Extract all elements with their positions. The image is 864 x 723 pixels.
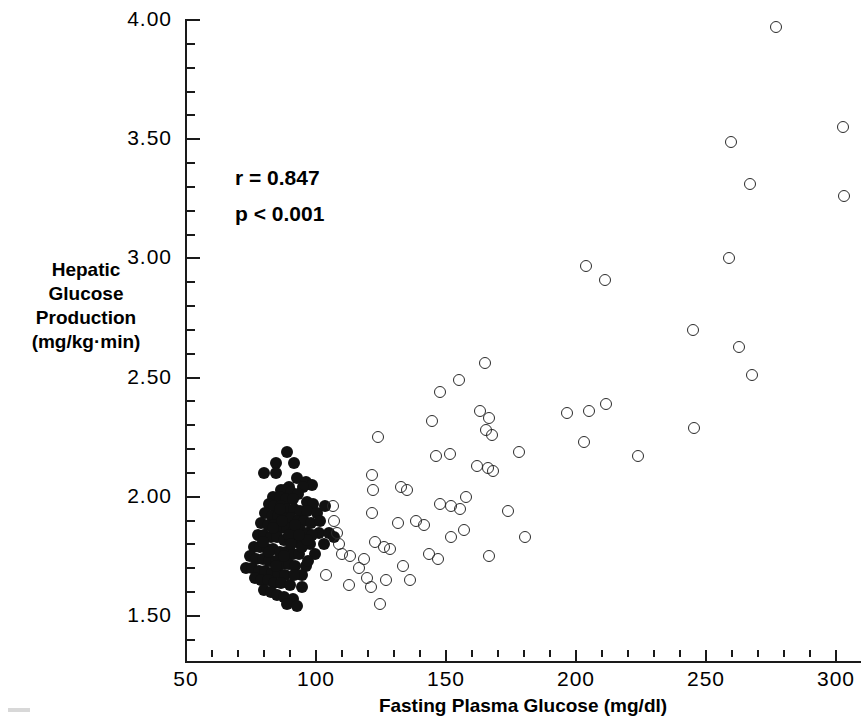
data-point-open <box>453 374 465 386</box>
y-tick-minor <box>187 43 195 45</box>
data-point-open <box>519 531 531 543</box>
y-tick-minor <box>187 281 195 283</box>
data-point-filled <box>284 534 296 546</box>
data-point-filled <box>280 493 292 505</box>
data-point-open <box>688 422 700 434</box>
data-point-filled <box>284 579 296 591</box>
data-point-open <box>486 429 498 441</box>
x-tick-minor <box>809 650 811 657</box>
data-point-filled <box>258 584 270 596</box>
data-point-open <box>365 581 377 593</box>
data-point-filled <box>304 538 316 550</box>
x-tick-minor <box>757 650 759 657</box>
data-point-open <box>432 553 444 565</box>
data-point-filled <box>263 546 275 558</box>
y-tick-minor <box>187 234 195 236</box>
data-point-filled <box>274 546 286 558</box>
data-point-open <box>328 515 340 527</box>
data-point-filled <box>267 543 279 555</box>
y-axis-title-line-3: (mg/kg·min) <box>0 330 172 354</box>
data-point-open <box>578 436 590 448</box>
data-point-filled <box>280 546 292 558</box>
data-point-filled <box>328 531 340 543</box>
data-point-open <box>458 524 470 536</box>
data-point-filled <box>283 481 295 493</box>
data-point-open <box>395 481 407 493</box>
data-point-filled <box>275 577 287 589</box>
data-point-filled <box>318 538 330 550</box>
data-point-filled <box>246 562 258 574</box>
y-axis-title: HepaticGlucoseProduction(mg/kg·min) <box>0 258 172 354</box>
data-point-filled <box>306 529 318 541</box>
data-point-filled <box>285 486 297 498</box>
data-point-filled <box>287 548 299 560</box>
y-tick-minor <box>187 520 195 522</box>
data-point-filled <box>268 500 280 512</box>
y-tick-minor <box>187 329 195 331</box>
data-point-filled <box>314 515 326 527</box>
y-tick-label: 2.50 <box>62 365 172 389</box>
y-axis-title-line-1: Glucose <box>0 282 172 306</box>
y-tick-label: 4.00 <box>62 7 172 31</box>
data-point-open <box>410 515 422 527</box>
data-point-open <box>471 460 483 472</box>
data-point-filled <box>281 446 293 458</box>
data-point-open <box>434 498 446 510</box>
data-point-open <box>687 324 699 336</box>
data-point-open <box>733 341 745 353</box>
data-point-filled <box>250 553 262 565</box>
y-tick-major <box>187 19 200 21</box>
data-point-filled <box>313 527 325 539</box>
x-tick-minor <box>419 650 421 657</box>
data-point-open <box>502 505 514 517</box>
data-point-filled <box>240 562 252 574</box>
y-tick-minor <box>187 210 195 212</box>
data-point-filled <box>259 565 271 577</box>
data-point-open <box>366 469 378 481</box>
data-point-filled <box>294 505 306 517</box>
data-point-filled <box>285 538 297 550</box>
data-point-open <box>380 574 392 586</box>
data-point-filled <box>267 522 279 534</box>
data-point-open <box>513 446 525 458</box>
x-tick-major <box>705 650 707 662</box>
data-point-filled <box>279 484 291 496</box>
data-point-filled <box>298 515 310 527</box>
data-point-open <box>378 541 390 553</box>
data-point-open <box>483 550 495 562</box>
y-tick-major <box>187 257 200 259</box>
data-point-open <box>837 121 849 133</box>
data-point-filled <box>281 522 293 534</box>
x-tick-minor <box>471 650 473 657</box>
data-point-filled <box>270 457 282 469</box>
data-point-filled <box>255 574 267 586</box>
data-point-filled <box>263 498 275 510</box>
x-tick-minor <box>783 650 785 657</box>
x-tick-label: 100 <box>276 667 356 691</box>
data-point-open <box>353 562 365 574</box>
x-tick-major <box>575 650 577 662</box>
y-tick-minor <box>187 400 195 402</box>
data-point-filled <box>296 541 308 553</box>
x-tick-minor <box>263 650 265 657</box>
x-tick-minor <box>341 650 343 657</box>
data-point-filled <box>259 507 271 519</box>
data-point-filled <box>249 572 261 584</box>
data-point-filled <box>255 517 267 529</box>
x-tick-minor <box>601 650 603 657</box>
data-point-filled <box>274 503 286 515</box>
data-point-filled <box>265 531 277 543</box>
x-tick-minor <box>393 650 395 657</box>
y-tick-label: 3.50 <box>62 126 172 150</box>
data-point-filled <box>265 586 277 598</box>
data-point-open <box>426 415 438 427</box>
x-axis-spine <box>185 661 861 663</box>
data-point-filled <box>268 577 280 589</box>
data-point-filled <box>244 550 256 562</box>
data-point-open <box>483 412 495 424</box>
data-point-open <box>723 252 735 264</box>
x-tick-minor <box>627 650 629 657</box>
data-point-filled <box>276 515 288 527</box>
data-point-filled <box>257 536 269 548</box>
data-point-open <box>444 448 456 460</box>
